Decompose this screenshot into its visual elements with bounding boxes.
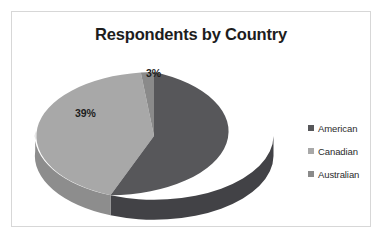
data-label-australian: 3% bbox=[146, 67, 161, 79]
legend-label-australian: Australian bbox=[318, 169, 359, 180]
legend-swatch-icon bbox=[308, 125, 314, 131]
chart-legend: American Canadian Australian bbox=[308, 119, 383, 188]
legend-swatch-icon bbox=[308, 171, 314, 177]
data-label-canadian: 39% bbox=[75, 107, 96, 119]
legend-label-canadian: Canadian bbox=[318, 146, 358, 157]
legend-swatch-icon bbox=[308, 148, 314, 154]
pie-chart-plot-area: 3% 39% 58% bbox=[20, 50, 288, 222]
data-label-american: 58% bbox=[241, 128, 262, 140]
chart-frame: Respondents by Country bbox=[11, 11, 371, 227]
legend-label-american: American bbox=[318, 123, 357, 134]
legend-item-canadian[interactable]: Canadian bbox=[308, 142, 383, 160]
legend-item-american[interactable]: American bbox=[308, 119, 383, 137]
legend-item-australian[interactable]: Australian bbox=[308, 165, 383, 183]
chart-title: Respondents by Country bbox=[12, 25, 370, 44]
